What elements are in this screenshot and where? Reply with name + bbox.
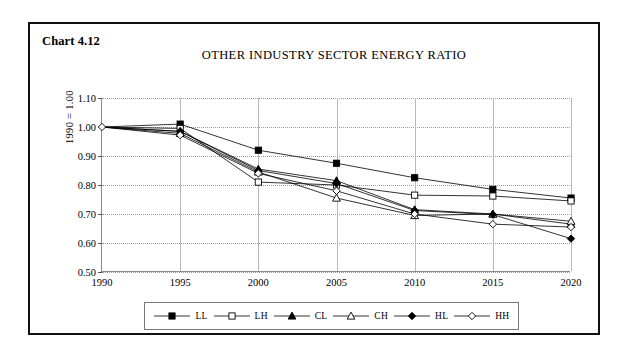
data-point-marker [255, 179, 261, 185]
legend-item-label: LL [194, 311, 207, 321]
data-point-marker [489, 220, 496, 227]
x-axis-tick-label: 2010 [404, 277, 425, 288]
x-axis-tick-label: 2000 [248, 277, 269, 288]
filled-triangle-marker [273, 310, 311, 322]
series-line [102, 127, 571, 224]
y-axis-title: 1990 = 1.00 [64, 90, 75, 144]
data-point-marker [568, 198, 574, 204]
data-point-marker [98, 123, 105, 130]
x-axis-tick-label: 2005 [326, 277, 347, 288]
series-plot [102, 98, 571, 272]
data-point-marker [412, 192, 418, 198]
filled-square-marker [153, 310, 191, 322]
series-cl [102, 127, 575, 227]
legend: LLLHCLCHHLHH [144, 302, 519, 330]
x-axis-tick-label: 1995 [170, 277, 191, 288]
plot-area-wrapper: 1.101.000.900.800.700.600.50 19901995200… [101, 98, 570, 272]
legend-item-label: HL [434, 311, 448, 321]
y-axis-tick-label: 0.90 [78, 151, 96, 162]
legend-item-label: CL [314, 311, 328, 321]
chart-number-label: Chart 4.12 [42, 34, 100, 49]
legend-item-label: LH [254, 311, 268, 321]
x-axis-tick-label: 2015 [482, 277, 503, 288]
gridline-vertical [571, 98, 572, 271]
y-axis-tick-label: 1.00 [78, 122, 96, 133]
y-axis-tick-mark [98, 272, 102, 273]
legend-item-lh[interactable]: LH [213, 310, 268, 322]
legend-item-label: CH [373, 311, 388, 321]
legend-item-label: HH [494, 311, 509, 321]
legend-item-ll[interactable]: LL [153, 310, 207, 322]
y-axis-tick-label: 0.50 [78, 267, 96, 278]
data-point-marker [333, 160, 339, 166]
plot-area: 1.101.000.900.800.700.600.50 19901995200… [101, 98, 570, 272]
y-axis-tick-label: 0.80 [78, 180, 96, 191]
open-triangle-marker [332, 310, 370, 322]
filled-diamond-marker [393, 310, 431, 322]
series-line [102, 127, 571, 221]
data-point-marker [255, 147, 261, 153]
data-point-marker [412, 175, 418, 181]
chart-title: OTHER INDUSTRY SECTOR ENERGY RATIO [30, 48, 598, 63]
gridline-horizontal [102, 272, 570, 273]
series-hl [102, 127, 575, 242]
legend-item-hh[interactable]: HH [453, 310, 509, 322]
y-axis-tick-label: 0.60 [78, 238, 96, 249]
data-point-marker [333, 194, 341, 201]
x-axis-tick-label: 1990 [92, 277, 113, 288]
data-point-marker [567, 235, 574, 242]
x-axis-tick-label: 2020 [561, 277, 582, 288]
open-diamond-marker [453, 310, 491, 322]
data-point-marker [490, 186, 496, 192]
figure-frame: Chart 4.12 OTHER INDUSTRY SECTOR ENERGY … [28, 22, 600, 335]
series-ch [102, 127, 575, 224]
legend-item-cl[interactable]: CL [273, 310, 328, 322]
legend-item-ch[interactable]: CH [332, 310, 388, 322]
y-axis-tick-label: 1.10 [78, 93, 96, 104]
legend-item-hl[interactable]: HL [393, 310, 448, 322]
open-square-marker [213, 310, 251, 322]
y-axis-tick-label: 0.70 [78, 209, 96, 220]
data-point-marker [490, 193, 496, 199]
